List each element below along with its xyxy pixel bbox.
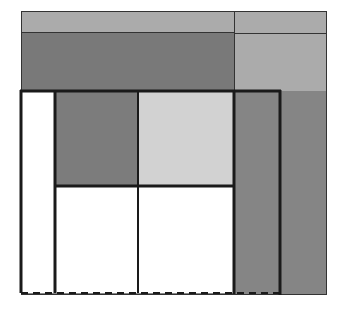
diagram-canvas — [0, 0, 339, 314]
frame-lines — [0, 0, 339, 314]
